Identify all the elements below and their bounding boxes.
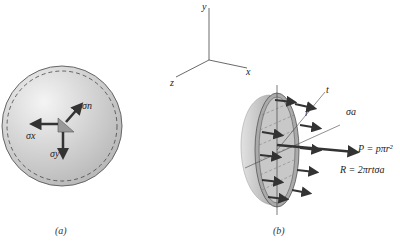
sigma-y-label: σy <box>50 148 59 159</box>
axis-x-label: x <box>246 66 250 77</box>
axes-b <box>176 8 247 77</box>
axis-y-label: y <box>202 1 206 12</box>
sigma-n-label: σn <box>82 100 92 111</box>
sigma-x-label: σx <box>26 130 35 141</box>
sigma-a-label: σa <box>346 106 356 117</box>
hemisphere-b <box>241 85 355 215</box>
r-label: r <box>305 107 309 118</box>
P-label: P = pπr² <box>358 143 393 154</box>
sphere-a <box>2 66 122 186</box>
caption-b: (b) <box>273 225 285 236</box>
R-label: R = 2πrtσa <box>340 164 384 175</box>
axis-z-label: z <box>170 77 174 88</box>
diagram-canvas <box>0 0 400 244</box>
t-label: t <box>326 84 329 95</box>
caption-a: (a) <box>55 225 67 236</box>
